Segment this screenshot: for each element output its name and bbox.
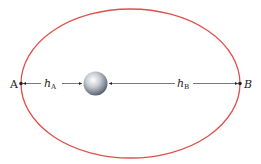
point-b-label: B xyxy=(243,78,252,91)
point-a-dot xyxy=(19,82,23,86)
orbit-diagram: A B hA hB xyxy=(0,0,261,164)
hA-label: hA xyxy=(44,77,57,91)
point-a-label: A xyxy=(9,78,19,91)
hB-label: hB xyxy=(177,77,189,91)
point-b-dot xyxy=(238,82,242,86)
planet-icon xyxy=(84,72,108,96)
